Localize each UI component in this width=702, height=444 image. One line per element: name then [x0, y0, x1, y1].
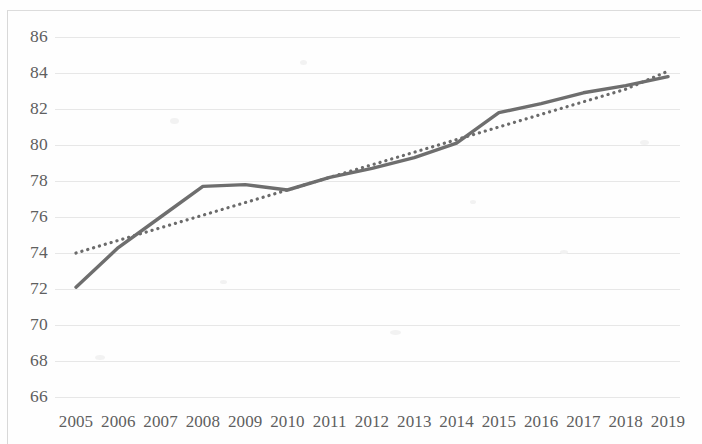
- x-axis-tick-label: 2006: [101, 412, 135, 432]
- series-layer: [0, 0, 702, 444]
- x-axis-tick-label: 2015: [482, 412, 516, 432]
- x-axis-tick-label: 2014: [439, 412, 473, 432]
- chart-figure: 8684828078767472706866 20052006200720082…: [0, 0, 702, 444]
- x-axis-tick-label: 2013: [397, 412, 431, 432]
- trendline-series: [76, 71, 668, 253]
- x-axis-tick-label: 2017: [566, 412, 600, 432]
- x-axis-tick-label: 2016: [524, 412, 558, 432]
- x-axis-tick-label: 2011: [313, 412, 347, 432]
- data-line-series: [76, 77, 668, 288]
- x-axis-tick-label: 2018: [609, 412, 643, 432]
- x-axis-tick-label: 2012: [355, 412, 389, 432]
- x-axis-tick-label: 2005: [59, 412, 93, 432]
- x-axis-tick-label: 2007: [143, 412, 177, 432]
- x-axis-tick-label: 2008: [186, 412, 220, 432]
- x-axis-tick-label: 2010: [270, 412, 304, 432]
- x-axis-tick-label: 2019: [651, 412, 685, 432]
- x-axis-tick-label: 2009: [228, 412, 262, 432]
- x-axis-tick-labels: 2005200620072008200920102011201220132014…: [0, 412, 702, 440]
